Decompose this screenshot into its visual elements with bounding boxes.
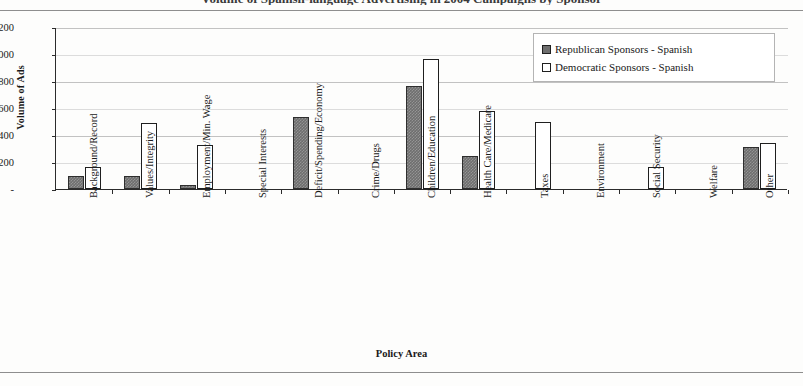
bar bbox=[462, 156, 478, 189]
x-tick-mark bbox=[338, 190, 339, 194]
x-tick-mark bbox=[450, 190, 451, 194]
legend-swatch-republican-icon bbox=[542, 45, 551, 54]
y-axis-title: Volume of Ads bbox=[15, 53, 26, 143]
x-tick-label: Employment/Min. Wage bbox=[201, 95, 212, 198]
bar bbox=[180, 185, 196, 189]
x-tick-label: Children/Education bbox=[426, 116, 437, 198]
x-tick-label: Values/Integrity bbox=[144, 131, 155, 198]
bar bbox=[68, 176, 84, 190]
x-tick-mark bbox=[225, 190, 226, 194]
legend-item-democratic: Democratic Sponsors - Spanish bbox=[542, 61, 766, 73]
y-tick-label: 800 bbox=[0, 77, 14, 87]
x-tick-mark bbox=[788, 190, 789, 194]
x-tick-label: Background/Record bbox=[88, 113, 99, 198]
y-tick-mark bbox=[52, 82, 56, 83]
y-tick-mark bbox=[52, 28, 56, 29]
y-tick-label: 1,200 bbox=[0, 23, 14, 33]
legend-item-republican: Republican Sponsors - Spanish bbox=[542, 43, 766, 55]
y-tick-label: 1,000 bbox=[0, 50, 14, 60]
figure-title-cropped: Volume of Spanish-language Advertising i… bbox=[0, 0, 803, 5]
legend-swatch-democratic-icon bbox=[542, 63, 551, 72]
bar bbox=[124, 176, 140, 190]
x-tick-label: Taxes bbox=[539, 174, 550, 198]
y-tick-mark bbox=[52, 55, 56, 56]
x-tick-mark bbox=[169, 190, 170, 194]
x-tick-mark bbox=[732, 190, 733, 194]
x-tick-label: Special Interests bbox=[257, 129, 268, 198]
y-tick-label: 400 bbox=[0, 131, 14, 141]
legend-label-republican: Republican Sponsors - Spanish bbox=[555, 43, 692, 55]
legend: Republican Sponsors - Spanish Democratic… bbox=[533, 33, 775, 82]
y-tick-label: 600 bbox=[0, 104, 14, 114]
x-tick-label: Health Care/Medicare bbox=[482, 105, 493, 198]
bar bbox=[406, 86, 422, 189]
bar bbox=[293, 117, 309, 189]
y-tick-mark bbox=[52, 163, 56, 164]
x-tick-mark bbox=[563, 190, 564, 194]
x-tick-mark bbox=[619, 190, 620, 194]
y-tick-mark bbox=[52, 190, 56, 191]
y-tick-label: 200 bbox=[0, 158, 14, 168]
top-rule bbox=[0, 10, 803, 11]
x-tick-mark bbox=[394, 190, 395, 194]
x-tick-label: Crime/Drugs bbox=[370, 143, 381, 198]
y-tick-mark bbox=[52, 109, 56, 110]
x-tick-label: Environment bbox=[595, 143, 606, 198]
x-tick-mark bbox=[506, 190, 507, 194]
legend-label-democratic: Democratic Sponsors - Spanish bbox=[555, 61, 693, 73]
y-tick-label: - bbox=[0, 185, 14, 195]
x-tick-mark bbox=[281, 190, 282, 194]
x-axis-title: Policy Area bbox=[0, 348, 803, 359]
x-tick-label: Other bbox=[764, 174, 775, 198]
figure: Volume of Spanish-language Advertising i… bbox=[0, 0, 803, 386]
x-tick-mark bbox=[112, 190, 113, 194]
x-tick-label: Welfare bbox=[708, 165, 719, 198]
bottom-rule bbox=[0, 372, 803, 373]
gridline bbox=[56, 28, 788, 29]
x-tick-label: Deficit/Spending/Economy bbox=[313, 83, 324, 198]
bar bbox=[743, 147, 759, 189]
x-tick-mark bbox=[675, 190, 676, 194]
y-tick-mark bbox=[52, 136, 56, 137]
x-tick-label: Social Security bbox=[651, 134, 662, 198]
